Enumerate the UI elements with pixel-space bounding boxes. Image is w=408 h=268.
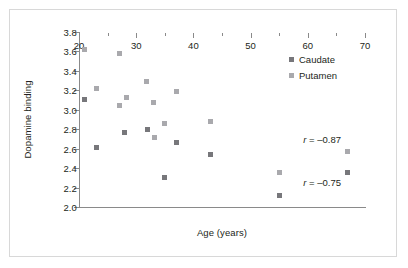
x-tick-label: 70: [360, 40, 371, 51]
data-point-putamen: [124, 95, 129, 100]
x-axis-line: [79, 207, 366, 208]
legend-swatch-icon: [289, 57, 294, 62]
data-point-caudate: [345, 170, 350, 175]
y-axis-title: Dopamine binding: [22, 32, 34, 207]
data-point-caudate: [174, 140, 179, 145]
correlation-annotation-caudate: r = –0.87: [303, 133, 341, 144]
x-tick-label: 40: [188, 40, 199, 51]
y-tick-label: 3.4: [63, 65, 77, 76]
x-tick: [79, 33, 80, 38]
x-tick-minor: [279, 33, 280, 36]
data-point-caudate: [162, 175, 167, 180]
data-point-putamen: [151, 100, 156, 105]
y-tick-label: 2.0: [63, 202, 77, 213]
legend-label: Putamen: [299, 70, 337, 81]
data-point-putamen: [208, 119, 213, 124]
x-tick-label: 30: [131, 40, 142, 51]
data-point-caudate: [145, 127, 150, 132]
y-tick-label: 3.0: [63, 104, 77, 115]
y-tick-label: 3.2: [63, 85, 77, 96]
scatter-plot-figure: Dopamine binding Age (years) 2.02.22.42.…: [0, 0, 408, 268]
legend-swatch-icon: [289, 73, 294, 78]
data-point-putamen: [82, 47, 87, 52]
correlation-annotation-putamen: r = –0.75: [303, 176, 341, 187]
x-tick-label: 60: [303, 40, 314, 51]
x-tick: [308, 33, 309, 38]
y-axis-line: [79, 32, 80, 208]
x-tick: [136, 33, 137, 38]
legend-label: Caudate: [299, 54, 335, 65]
chart-legend: CaudatePutamen: [289, 53, 337, 85]
data-point-caudate: [82, 97, 87, 102]
data-point-putamen: [162, 121, 167, 126]
data-point-putamen: [94, 86, 99, 91]
data-point-putamen: [345, 149, 350, 154]
data-point-caudate: [208, 152, 213, 157]
x-axis-title: Age (years): [79, 227, 365, 238]
data-point-putamen: [144, 79, 149, 84]
legend-item-putamen[interactable]: Putamen: [289, 69, 337, 82]
x-tick-minor: [222, 33, 223, 36]
x-tick-minor: [336, 33, 337, 36]
y-tick-label: 2.2: [63, 182, 77, 193]
data-point-putamen: [117, 51, 122, 56]
data-point-putamen: [117, 103, 122, 108]
data-point-caudate: [122, 130, 127, 135]
x-tick-minor: [165, 33, 166, 36]
x-tick: [251, 33, 252, 38]
data-point-putamen: [277, 170, 282, 175]
x-tick: [365, 33, 366, 38]
x-tick-label: 50: [245, 40, 256, 51]
data-point-caudate: [94, 145, 99, 150]
y-tick-label: 2.4: [63, 163, 77, 174]
data-point-putamen: [174, 89, 179, 94]
y-tick-label: 2.8: [63, 124, 77, 135]
x-tick-minor: [108, 33, 109, 36]
data-point-caudate: [277, 193, 282, 198]
x-tick: [193, 33, 194, 38]
data-point-putamen: [152, 135, 157, 140]
legend-item-caudate[interactable]: Caudate: [289, 53, 337, 66]
y-tick-label: 2.6: [63, 143, 77, 154]
y-tick-label: 3.8: [63, 27, 77, 38]
